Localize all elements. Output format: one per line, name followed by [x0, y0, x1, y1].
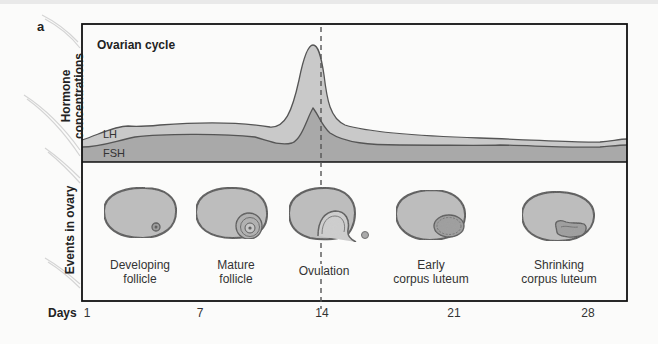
stage-line2: corpus luteum — [381, 272, 481, 286]
stage-line2: follicle — [191, 272, 281, 286]
stage-line1: Mature — [191, 258, 281, 272]
stage-line2: corpus luteum — [507, 272, 611, 286]
y-label-hormone-line2: concentrations — [73, 46, 86, 146]
ovary-shrinking-corpus-luteum-icon — [522, 192, 594, 241]
day-tick-28: 28 — [581, 306, 594, 320]
y-label-events-in-ovary: Events in ovary — [64, 175, 78, 285]
day-tick-14: 14 — [315, 306, 328, 320]
ovary-early-corpus-luteum-icon — [396, 190, 465, 240]
ovary-mature-follicle-icon — [196, 188, 267, 239]
stage-label-early-corpus-luteum: Early corpus luteum — [381, 258, 481, 286]
ovary-developing-follicle-icon — [104, 188, 176, 238]
stage-label-developing-follicle: Developing follicle — [95, 258, 185, 286]
stage-line1: Early — [381, 258, 481, 272]
stage-line1: Developing — [95, 258, 185, 272]
y-label-hormone-concentrations: Hormone concentrations — [60, 46, 88, 146]
lh-label: LH — [103, 128, 117, 140]
stage-label-mature-follicle: Mature follicle — [191, 258, 281, 286]
stage-line1: Ovulation — [282, 264, 366, 278]
day-tick-1: 1 — [84, 306, 91, 320]
stage-line1: Shrinking — [507, 258, 611, 272]
stage-label-shrinking-corpus-luteum: Shrinking corpus luteum — [507, 258, 611, 286]
stage-line2: follicle — [95, 272, 185, 286]
day-tick-7: 7 — [197, 306, 204, 320]
days-axis-title: Days — [48, 306, 77, 320]
fsh-label: FSH — [103, 147, 125, 159]
day-tick-21: 21 — [447, 306, 460, 320]
stage-label-ovulation: Ovulation — [282, 264, 366, 278]
chart-title: Ovarian cycle — [97, 38, 175, 52]
